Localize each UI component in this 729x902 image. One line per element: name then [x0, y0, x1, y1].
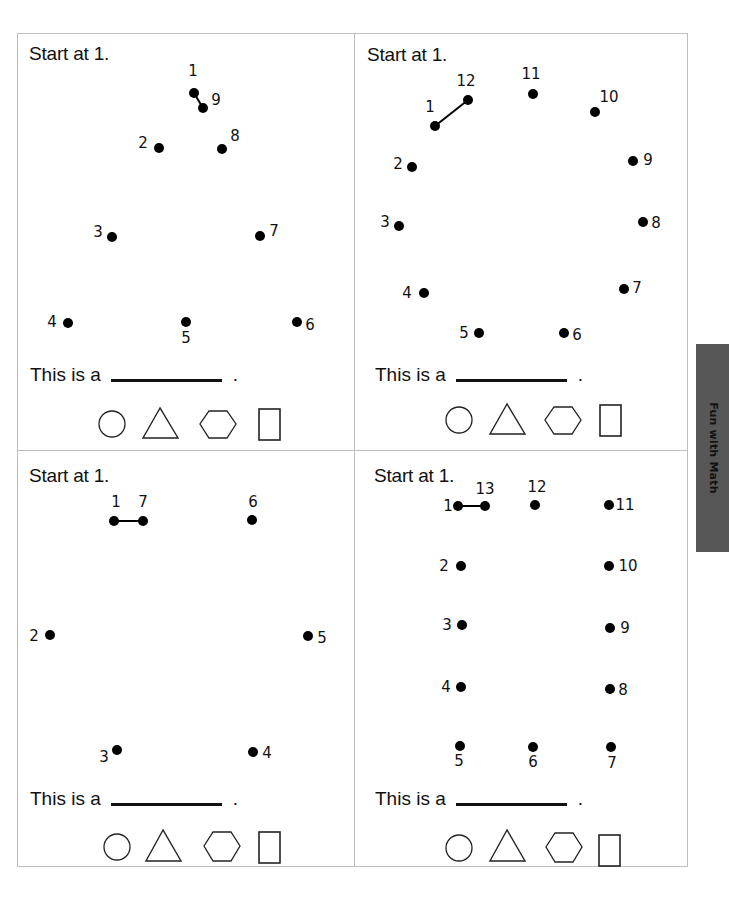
dot-7[interactable] [619, 284, 629, 294]
dot-2[interactable] [45, 630, 55, 640]
hexagon-choice-icon[interactable] [200, 411, 236, 438]
dot-1[interactable] [453, 501, 463, 511]
dot-number-label: 4 [441, 678, 451, 696]
dot-2[interactable] [407, 162, 417, 172]
dot-9[interactable] [628, 156, 638, 166]
sentence-prefix: This is a [30, 364, 101, 385]
circle-choice-icon[interactable] [446, 407, 472, 433]
dot-12[interactable] [463, 95, 473, 105]
dot-number-label: 8 [230, 127, 240, 145]
dot-number-label: 6 [572, 326, 582, 344]
hexagon-choice-icon[interactable] [204, 832, 240, 861]
dot-number-label: 8 [618, 681, 628, 699]
circle-choice-icon[interactable] [99, 411, 125, 437]
answer-sentence: This is a. [30, 788, 238, 810]
triangle-choice-icon[interactable] [490, 404, 525, 434]
dot-8[interactable] [638, 217, 648, 227]
dot-3[interactable] [112, 745, 122, 755]
rectangle-choice-icon[interactable] [259, 832, 280, 863]
dot-3[interactable] [394, 221, 404, 231]
dot-number-label: 1 [425, 98, 435, 116]
dot-number-label: 6 [248, 493, 258, 511]
rectangle-choice-icon[interactable] [600, 405, 621, 436]
dot-3[interactable] [457, 620, 467, 630]
dot-5[interactable] [455, 741, 465, 751]
instruction-label: Start at 1. [367, 44, 447, 66]
dot-11[interactable] [604, 500, 614, 510]
dot-10[interactable] [604, 561, 614, 571]
dot-4[interactable] [419, 288, 429, 298]
dot-8[interactable] [605, 684, 615, 694]
section-side-tab: Fun with Math [696, 344, 729, 552]
horizontal-divider [17, 450, 688, 451]
dot-number-label: 7 [138, 493, 148, 511]
triangle-choice-icon[interactable] [143, 408, 178, 438]
dot-4[interactable] [456, 682, 466, 692]
dot-12[interactable] [530, 500, 540, 510]
dot-7[interactable] [255, 231, 265, 241]
answer-blank[interactable] [111, 379, 222, 382]
dot-5[interactable] [181, 317, 191, 327]
dot-number-label: 2 [138, 134, 148, 152]
dot-13[interactable] [480, 501, 490, 511]
dot-1[interactable] [109, 516, 119, 526]
dot-number-label: 4 [402, 284, 412, 302]
dot-7[interactable] [606, 742, 616, 752]
circle-choice-icon[interactable] [446, 835, 472, 861]
shape-choices [95, 402, 290, 444]
dot-number-label: 13 [475, 480, 494, 498]
dot-number-label: 1 [443, 497, 453, 515]
dot-2[interactable] [154, 143, 164, 153]
triangle-choice-icon[interactable] [146, 830, 181, 861]
dot-number-label: 1 [111, 493, 121, 511]
dot-4[interactable] [63, 318, 73, 328]
side-tab-label: Fun with Math [706, 402, 719, 493]
dot-1[interactable] [189, 88, 199, 98]
answer-blank[interactable] [456, 379, 567, 382]
shape-choices [442, 826, 637, 868]
hexagon-choice-icon[interactable] [546, 833, 582, 862]
dot-8[interactable] [217, 144, 227, 154]
sentence-period: . [233, 364, 238, 385]
circle-choice-icon[interactable] [104, 834, 130, 860]
dot-3[interactable] [107, 232, 117, 242]
sentence-period: . [233, 788, 238, 809]
dot-6[interactable] [528, 742, 538, 752]
sentence-period: . [578, 788, 583, 809]
dot-number-label: 11 [615, 496, 634, 514]
dot-11[interactable] [528, 89, 538, 99]
instruction-label: Start at 1. [29, 465, 109, 487]
dot-9[interactable] [605, 623, 615, 633]
rectangle-choice-icon[interactable] [599, 835, 620, 866]
dot-number-label: 3 [442, 616, 452, 634]
sentence-prefix: This is a [375, 364, 446, 385]
answer-sentence: This is a. [30, 364, 238, 386]
dot-number-label: 5 [181, 329, 191, 347]
dot-number-label: 12 [456, 72, 475, 90]
dot-10[interactable] [590, 107, 600, 117]
answer-blank[interactable] [111, 803, 222, 806]
dot-number-label: 12 [527, 478, 546, 496]
answer-blank[interactable] [456, 803, 567, 806]
dot-number-label: 4 [262, 744, 272, 762]
dot-number-label: 7 [607, 754, 617, 772]
dot-number-label: 7 [269, 222, 279, 240]
triangle-choice-icon[interactable] [490, 830, 525, 861]
dot-1[interactable] [430, 121, 440, 131]
dot-number-label: 4 [47, 313, 57, 331]
dot-5[interactable] [303, 631, 313, 641]
dot-number-label: 1 [188, 62, 198, 80]
answer-sentence: This is a. [375, 788, 583, 810]
dot-9[interactable] [198, 103, 208, 113]
dot-6[interactable] [292, 317, 302, 327]
dot-7[interactable] [138, 516, 148, 526]
dot-number-label: 3 [93, 223, 103, 241]
dot-2[interactable] [456, 561, 466, 571]
dot-5[interactable] [474, 328, 484, 338]
dot-4[interactable] [248, 747, 258, 757]
dot-number-label: 2 [29, 627, 39, 645]
rectangle-choice-icon[interactable] [259, 409, 280, 440]
dot-6[interactable] [247, 515, 257, 525]
hexagon-choice-icon[interactable] [545, 407, 581, 434]
dot-6[interactable] [559, 328, 569, 338]
